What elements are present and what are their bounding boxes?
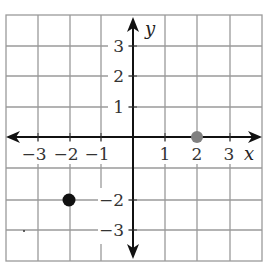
- y-axis-label: y: [144, 18, 156, 39]
- y-tick-label: 2: [113, 66, 124, 86]
- x-axis-label: x: [244, 143, 254, 164]
- stray-dot: [23, 230, 25, 232]
- y-tick-label: 3: [113, 36, 124, 56]
- x-tick-label: 2: [192, 144, 203, 164]
- x-tick-label: 1: [160, 144, 171, 164]
- y-tick-label: −2: [99, 190, 124, 210]
- x-tick-label: −2: [53, 144, 78, 164]
- label-backgrounds: [14, 36, 256, 244]
- point-neg2-neg2: [63, 194, 76, 207]
- x-tick-label: −3: [21, 144, 46, 164]
- point-2-0: [191, 131, 203, 143]
- x-tick-label: 3: [224, 144, 235, 164]
- y-tick-label: −3: [99, 220, 124, 240]
- y-tick-label: 1: [113, 97, 124, 117]
- x-tick-label: −1: [84, 144, 109, 164]
- coordinate-plane: −3 −2 −1 1 2 3 x 3 2 1 −2 −3 y: [0, 0, 271, 263]
